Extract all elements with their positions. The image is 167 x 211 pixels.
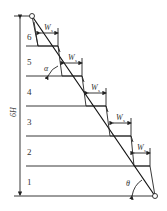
theta-angle: θ (126, 179, 142, 196)
bench-width-dimensions: Ws Ws Ws Ws Ws (40, 23, 150, 153)
slope-bench-diagram: 6H 1 2 3 4 5 6 (0, 0, 167, 211)
level-1: 1 (27, 177, 32, 187)
level-numbers: 1 2 3 4 5 6 (27, 32, 32, 187)
level-6: 6 (27, 32, 32, 42)
svg-text:s: s (144, 148, 146, 153)
level-4: 4 (27, 87, 32, 97)
alpha-angle: α (44, 64, 58, 76)
height-label: 6H (9, 106, 18, 117)
level-3: 3 (27, 117, 32, 127)
theta-label: θ (126, 179, 130, 188)
svg-text:s: s (98, 88, 100, 93)
svg-text:s: s (123, 118, 125, 123)
level-5: 5 (27, 57, 32, 67)
level-2: 2 (27, 147, 32, 157)
height-dimension: 6H (9, 18, 20, 195)
top-endpoint (30, 14, 35, 19)
svg-text:s: s (75, 58, 77, 63)
bottom-endpoint (153, 194, 158, 199)
alpha-label: α (44, 64, 49, 73)
level-lines (14, 46, 156, 196)
svg-text:s: s (51, 28, 53, 33)
